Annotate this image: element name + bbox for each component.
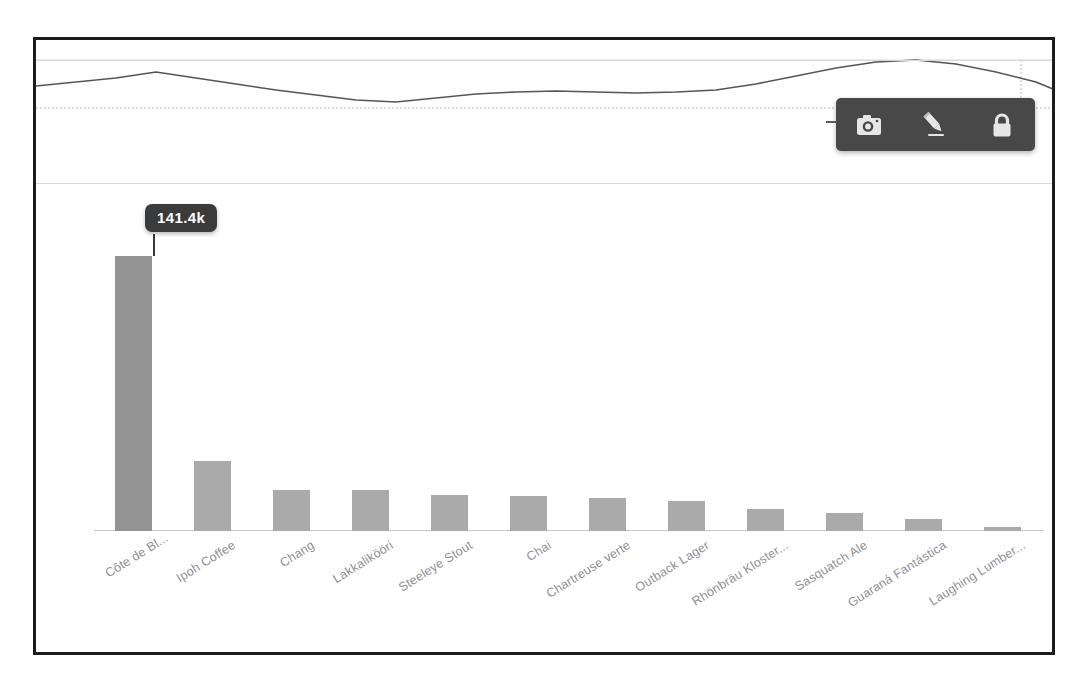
bar-10[interactable] [905,519,941,531]
camera-icon[interactable] [846,102,892,148]
x-axis-labels: Côte de Bl...Ipoh CoffeeChangLakkaliköör… [94,532,1042,652]
bar-rect [352,490,388,531]
bar-9[interactable] [826,513,862,531]
bar-rect [589,498,625,531]
bar-rect [273,490,309,531]
floating-chart-toolbar[interactable] [836,98,1035,151]
bar-7[interactable] [668,501,704,531]
chart-frame: 141.4k Côte de Bl...Ipoh CoffeeChangLakk… [33,37,1055,655]
bar-gridline-upper [36,60,1052,61]
lock-icon[interactable] [979,102,1025,148]
bar-rect [747,509,783,531]
chart-plot-area: 141.4k Côte de Bl...Ipoh CoffeeChangLakk… [36,40,1052,652]
bar-rect [905,519,941,531]
toolbar-connector [826,121,837,123]
bar-rect [115,256,151,531]
bar-series [94,200,1042,531]
value-tooltip: 141.4k [145,204,217,232]
tooltip-stem [153,234,155,256]
x-axis-label-3: Lakkalikööri [139,538,396,655]
bar-1[interactable] [194,461,230,531]
bar-5[interactable] [510,496,546,531]
bar-6[interactable] [589,498,625,531]
bar-8[interactable] [747,509,783,531]
bar-0[interactable] [115,256,151,531]
x-axis-label-0: Côte de Bl... [103,538,159,580]
pencil-icon[interactable] [912,102,958,148]
bar-rect [194,461,230,531]
bar-rect [984,527,1020,531]
bar-rect [826,513,862,531]
bar-rect [668,501,704,531]
bar-4[interactable] [431,495,467,531]
bar-rect [510,496,546,531]
bar-gridline-mid [36,183,1052,184]
sparkline-series [36,60,1055,102]
bar-rect [431,495,467,531]
bar-3[interactable] [352,490,388,531]
bar-11[interactable] [984,527,1020,531]
bar-2[interactable] [273,490,309,531]
